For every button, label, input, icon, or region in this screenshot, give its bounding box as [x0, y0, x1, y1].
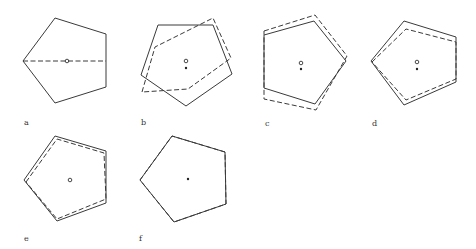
dashed-pentagon: [372, 29, 456, 100]
centroid-circle: [68, 178, 72, 182]
pentagon-figure: [0, 0, 476, 249]
centroid-dot: [187, 178, 189, 180]
panel-label-d: d: [372, 119, 377, 128]
dashed-pentagon: [142, 18, 231, 92]
panel-b: [141, 18, 232, 106]
dashed-pentagon: [264, 15, 347, 110]
panel-label-b: b: [141, 118, 146, 127]
centroid-dot: [185, 67, 187, 69]
panel-a: [23, 18, 106, 103]
centroid-dot: [416, 68, 418, 70]
centroid-circle: [184, 59, 188, 63]
panel-e: [24, 136, 106, 221]
solid-pentagon: [24, 136, 106, 221]
panel-f: [140, 136, 226, 222]
centroid-dot: [300, 68, 302, 70]
panel-c: [264, 15, 347, 110]
panel-label-f: f: [139, 234, 142, 243]
solid-pentagon: [140, 136, 226, 222]
panel-label-c: c: [265, 119, 269, 128]
solid-pentagon: [264, 21, 346, 104]
centroid-circle: [415, 60, 419, 64]
panel-label-a: a: [24, 118, 29, 127]
panel-label-e: e: [24, 234, 29, 243]
solid-pentagon: [371, 21, 456, 105]
centroid-circle: [299, 61, 303, 65]
panel-d: [371, 21, 456, 105]
solid-pentagon: [141, 25, 232, 106]
